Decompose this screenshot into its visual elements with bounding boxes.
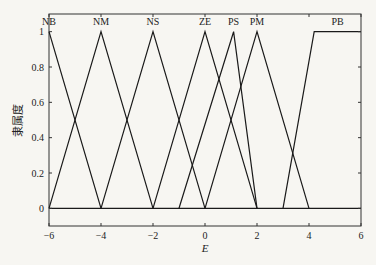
y-ticks: 00.20.40.60.81 <box>32 26 362 214</box>
y-tick-label: 0.2 <box>32 168 45 179</box>
x-tick-label: −4 <box>96 230 107 241</box>
series-pm <box>205 32 309 209</box>
series-nm <box>49 32 153 209</box>
y-tick-label: 1 <box>39 26 44 37</box>
label-nm: NM <box>93 16 109 27</box>
axes-box <box>49 14 361 226</box>
label-ps: PS <box>228 16 239 27</box>
label-pm: PM <box>250 16 265 27</box>
x-tick-label: 2 <box>255 230 260 241</box>
x-tick-label: 6 <box>359 230 364 241</box>
series-ns <box>101 32 205 209</box>
x-tick-label: 4 <box>307 230 312 241</box>
label-ns: NS <box>147 16 160 27</box>
x-tick-label: −6 <box>44 230 55 241</box>
x-tick-label: 0 <box>203 230 208 241</box>
y-tick-label: 0 <box>39 203 44 214</box>
y-axis-label: 隶属度 <box>11 104 25 137</box>
label-ze: ZE <box>199 16 211 27</box>
label-nb: NB <box>42 16 56 27</box>
x-tick-label: −2 <box>148 230 159 241</box>
series-pb <box>283 32 361 209</box>
y-tick-label: 0.6 <box>32 97 45 108</box>
series-ps <box>179 32 257 209</box>
y-tick-label: 0.4 <box>32 132 45 143</box>
plot-frame <box>49 14 361 226</box>
membership-function-chart: NBNMNSZEPSPMPB −6−4−20246 00.20.40.60.81… <box>0 0 376 265</box>
series-ze <box>153 32 257 209</box>
y-tick-label: 0.8 <box>32 62 45 73</box>
label-pb: PB <box>331 16 344 27</box>
series-group <box>49 32 361 209</box>
mf-labels: NBNMNSZEPSPMPB <box>42 16 344 27</box>
x-axis-label: E <box>201 242 209 254</box>
